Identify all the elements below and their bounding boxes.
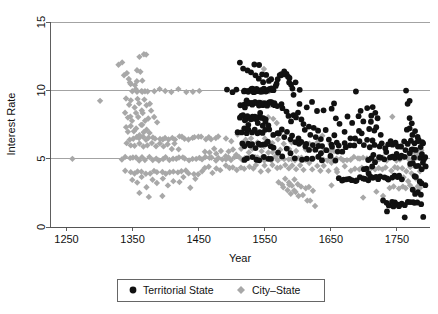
x-tick-label-1750: 1750: [385, 233, 409, 245]
data-point: [329, 106, 335, 112]
data-point: [269, 162, 275, 168]
data-point: [366, 171, 372, 177]
data-point: [309, 99, 315, 105]
data-point: [304, 104, 310, 110]
data-point: [325, 168, 331, 174]
data-point: [351, 143, 357, 149]
data-point: [290, 86, 296, 92]
y-axis-title: Interest Rate: [5, 93, 17, 156]
data-point: [301, 121, 307, 127]
data-point: [291, 92, 297, 98]
data-point: [349, 120, 355, 126]
data-point: [148, 107, 154, 113]
data-point: [328, 153, 334, 159]
data-point: [412, 128, 418, 134]
y-tick-label-0: 0: [35, 224, 47, 230]
data-point: [407, 125, 413, 131]
data-point: [286, 113, 292, 119]
data-point: [326, 137, 332, 143]
data-point: [413, 147, 419, 153]
data-point: [266, 127, 272, 133]
data-point: [284, 129, 290, 135]
data-point: [312, 203, 318, 209]
data-point: [256, 157, 262, 163]
data-point: [356, 113, 362, 119]
data-point: [345, 114, 351, 120]
data-point: [288, 118, 294, 124]
data-point: [317, 168, 323, 174]
data-point: [300, 167, 306, 173]
legend-marker-territorial-state: [130, 287, 137, 294]
data-point: [256, 62, 262, 68]
data-point: [263, 72, 269, 78]
data-point: [128, 123, 134, 129]
data-point: [379, 140, 385, 146]
x-tick-label-1650: 1650: [319, 233, 343, 245]
data-point: [373, 124, 379, 130]
data-point: [284, 146, 290, 152]
data-point: [337, 121, 343, 127]
x-tick-label-1350: 1350: [120, 233, 144, 245]
data-point: [151, 114, 157, 120]
data-point: [375, 115, 381, 121]
data-point: [175, 86, 181, 92]
data-point: [357, 138, 363, 144]
data-point: [169, 146, 175, 152]
data-point: [289, 133, 295, 139]
x-tick-label-1250: 1250: [54, 233, 78, 245]
data-point: [292, 155, 298, 161]
data-point: [353, 89, 359, 95]
data-point: [364, 105, 370, 111]
data-point: [328, 182, 334, 188]
data-point: [366, 126, 372, 132]
data-point: [329, 144, 335, 150]
data-point: [187, 185, 193, 191]
data-point: [358, 108, 364, 114]
data-point: [175, 146, 181, 152]
data-point: [319, 143, 325, 149]
data-point: [321, 163, 327, 169]
data-point: [368, 119, 374, 125]
data-point: [342, 129, 348, 135]
data-point: [291, 176, 297, 182]
data-point: [364, 137, 370, 143]
data-point: [310, 188, 316, 194]
data-point: [154, 119, 160, 125]
data-point: [304, 156, 310, 162]
data-point: [146, 194, 152, 200]
x-tick-label-1550: 1550: [253, 233, 277, 245]
data-point: [342, 163, 348, 169]
data-point: [97, 98, 103, 104]
data-point: [309, 156, 315, 162]
data-point: [233, 87, 239, 93]
data-point: [159, 193, 165, 199]
legend-label-city-state: City–State: [252, 284, 301, 296]
data-point: [297, 101, 303, 107]
data-point: [407, 98, 413, 104]
data-point: [275, 136, 281, 142]
data-point: [228, 138, 234, 144]
data-point: [303, 141, 309, 147]
data-point: [134, 179, 140, 185]
data-point: [315, 128, 321, 134]
data-point: [268, 156, 274, 162]
data-point: [356, 128, 362, 134]
data-point: [418, 201, 424, 207]
data-point: [372, 110, 378, 116]
data-point: [143, 184, 149, 190]
data-point: [261, 162, 267, 168]
data-point: [370, 152, 376, 158]
data-point: [389, 114, 395, 120]
data-point: [270, 116, 276, 122]
data-point: [279, 153, 285, 159]
data-points-territorial-state: [224, 60, 428, 221]
y-tick-label-15: 15: [35, 16, 47, 28]
data-point: [321, 107, 327, 113]
data-point: [333, 115, 339, 121]
data-point: [360, 119, 366, 125]
data-point: [333, 158, 339, 164]
data-point: [141, 96, 147, 102]
y-tick-label-10: 10: [35, 84, 47, 96]
data-point: [176, 179, 182, 185]
data-point: [409, 120, 415, 126]
